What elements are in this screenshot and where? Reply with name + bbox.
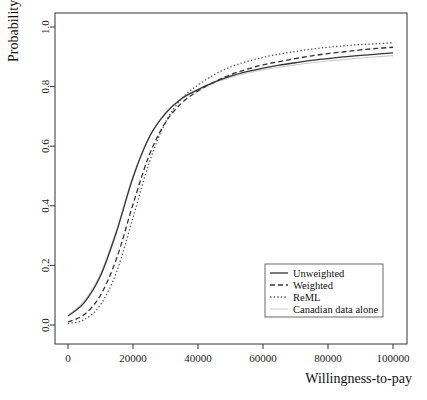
y-tick-label: 0.6 — [39, 139, 51, 153]
x-axis-title: Willingness-to-pay — [305, 371, 412, 386]
y-tick-label: 0.0 — [39, 318, 51, 332]
legend-label: Canadian data alone — [293, 304, 378, 315]
chart-legend: UnweightedWeightedReMLCanadian data alon… — [265, 264, 383, 317]
x-tick-label: 80000 — [314, 352, 342, 364]
y-tick-label: 1.0 — [39, 20, 51, 34]
x-tick-label: 0 — [65, 352, 71, 364]
chart-figure: 0.00.20.40.60.81.0 020000400006000080000… — [0, 0, 427, 400]
x-tick-label: 40000 — [184, 352, 212, 364]
legend-label: Unweighted — [293, 268, 345, 279]
y-axis-title: Probability — [6, 0, 21, 62]
y-axis-ticks: 0.00.20.40.60.81.0 — [39, 20, 55, 332]
legend-label: ReML — [293, 292, 320, 303]
y-tick-label: 0.2 — [39, 259, 51, 273]
y-tick-label: 0.4 — [39, 198, 51, 212]
chart-canvas: 0.00.20.40.60.81.0 020000400006000080000… — [0, 0, 427, 400]
legend-label: Weighted — [293, 280, 334, 291]
x-tick-label: 20000 — [119, 352, 147, 364]
x-axis-ticks: 020000400006000080000100000 — [65, 344, 410, 364]
y-tick-label: 0.8 — [39, 79, 51, 93]
x-tick-label: 100000 — [377, 352, 411, 364]
x-tick-label: 60000 — [249, 352, 277, 364]
